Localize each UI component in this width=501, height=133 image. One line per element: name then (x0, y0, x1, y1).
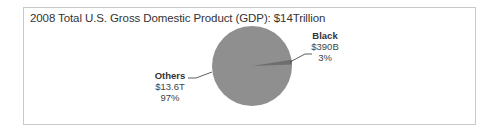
slice-percent: 3% (303, 52, 347, 63)
slice-name: Others (148, 70, 192, 81)
slice-name: Black (303, 30, 347, 41)
slice-percent: 97% (148, 92, 192, 103)
slice-value: $13.6T (148, 81, 192, 92)
pie-chart (0, 0, 501, 133)
data-label-others: Others $13.6T 97% (148, 70, 192, 103)
slice-value: $390B (303, 41, 347, 52)
data-label-black: Black $390B 3% (303, 30, 347, 63)
